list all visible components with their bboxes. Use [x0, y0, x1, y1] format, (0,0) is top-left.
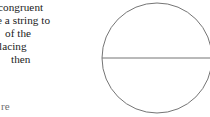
text-line: e a string to — [0, 14, 50, 26]
paragraph-text-block: congruent e a string to of the lacing th… — [0, 0, 74, 84]
clipped-text-fragment-label: re — [1, 101, 10, 112]
text-line: lacing — [0, 40, 27, 52]
text-line: then — [11, 53, 30, 65]
text-line: congruent — [0, 1, 43, 13]
page-canvas: congruent e a string to of the lacing th… — [0, 0, 210, 117]
clipped-text-fragment: re — [0, 101, 26, 117]
text-line: of the — [5, 27, 31, 39]
circle-diagram — [100, 0, 210, 117]
